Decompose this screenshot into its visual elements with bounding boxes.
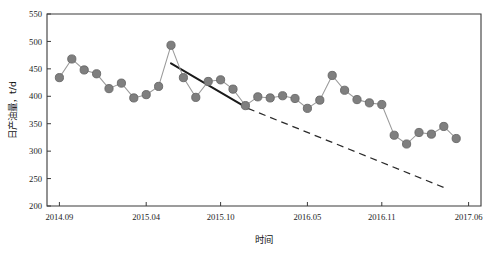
dashed-projection-line bbox=[248, 108, 446, 188]
data-point bbox=[117, 79, 125, 87]
data-point bbox=[303, 104, 311, 112]
y-tick-label: 550 bbox=[29, 9, 42, 19]
data-point bbox=[55, 74, 63, 82]
solid-trend-line bbox=[171, 63, 248, 108]
data-series-group bbox=[55, 41, 460, 148]
data-point bbox=[452, 134, 460, 142]
data-point bbox=[378, 100, 386, 108]
data-point bbox=[390, 131, 398, 139]
data-point bbox=[192, 93, 200, 101]
y-tick-label: 450 bbox=[29, 64, 42, 74]
data-point bbox=[266, 94, 274, 102]
data-point bbox=[427, 130, 435, 138]
data-point bbox=[316, 96, 324, 104]
data-point bbox=[167, 41, 175, 49]
x-tick-label: 2014.09 bbox=[45, 212, 73, 222]
data-point bbox=[403, 140, 411, 148]
y-tick-label: 500 bbox=[29, 37, 42, 47]
data-point bbox=[279, 92, 287, 100]
plot-frame bbox=[47, 14, 481, 206]
data-point bbox=[440, 122, 448, 130]
y-tick-label: 200 bbox=[29, 201, 42, 211]
data-point bbox=[105, 85, 113, 93]
chart-plot: 200250300350400450500550 2014.092015.042… bbox=[0, 0, 494, 258]
x-tick-label: 2017.06 bbox=[455, 212, 484, 222]
y-axis-ticks: 200250300350400450500550 bbox=[29, 9, 51, 211]
data-point bbox=[130, 94, 138, 102]
x-axis-title: 时间 bbox=[255, 234, 273, 245]
data-point bbox=[93, 70, 101, 78]
x-tick-label: 2016.05 bbox=[293, 212, 321, 222]
data-point bbox=[155, 82, 163, 90]
data-point bbox=[217, 76, 225, 84]
y-tick-label: 400 bbox=[29, 91, 42, 101]
data-point bbox=[241, 102, 249, 110]
data-point bbox=[415, 128, 423, 136]
data-point bbox=[68, 55, 76, 63]
data-point bbox=[80, 66, 88, 74]
data-point bbox=[142, 91, 150, 99]
data-point bbox=[254, 93, 262, 101]
x-tick-label: 2015.04 bbox=[132, 212, 161, 222]
data-point bbox=[204, 77, 212, 85]
y-axis-title: 日产油量，t/d bbox=[7, 81, 18, 139]
y-tick-label: 250 bbox=[29, 174, 42, 184]
chart-container: 200250300350400450500550 2014.092015.042… bbox=[0, 0, 494, 258]
data-point bbox=[328, 71, 336, 79]
x-tick-label: 2015.10 bbox=[207, 212, 235, 222]
x-axis-ticks: 2014.092015.042015.102016.052016.112017.… bbox=[45, 202, 483, 222]
data-point bbox=[179, 74, 187, 82]
y-tick-label: 350 bbox=[29, 119, 42, 129]
x-tick-label: 2016.11 bbox=[368, 212, 396, 222]
data-point bbox=[365, 99, 373, 107]
data-point bbox=[291, 94, 299, 102]
data-point bbox=[229, 85, 237, 93]
y-tick-label: 300 bbox=[29, 146, 42, 156]
data-point bbox=[353, 95, 361, 103]
data-point bbox=[341, 86, 349, 94]
plot-border bbox=[47, 14, 481, 206]
